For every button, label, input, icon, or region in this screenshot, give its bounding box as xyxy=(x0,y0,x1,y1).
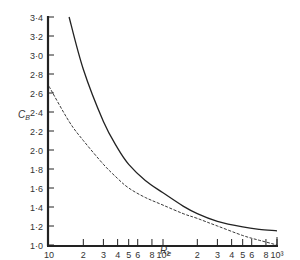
x-tick-label: 8 xyxy=(149,250,154,260)
x-tick-label: 6 xyxy=(135,250,140,260)
y-tick-label: 2·8 xyxy=(30,70,43,80)
y-tick-label: 2·0 xyxy=(30,146,43,156)
y-axis: 1·01·21·41·61·82·02·22·42·62·83·03·23·4 xyxy=(30,13,54,251)
chart: 1·01·21·41·61·82·02·22·42·62·83·03·23·4 … xyxy=(0,0,300,260)
series-solid-line xyxy=(69,17,277,231)
y-tick-label: 2·4 xyxy=(30,108,43,118)
x-tick-label: 2 xyxy=(81,250,86,260)
y-tick-label: 1·2 xyxy=(30,222,43,232)
y-tick-label: 1·4 xyxy=(30,203,43,213)
y-tick-label: 3·0 xyxy=(30,51,43,61)
x-tick-label: 10 xyxy=(44,250,54,260)
y-tick-label: 2·2 xyxy=(30,127,43,137)
y-tick-label: 1·8 xyxy=(30,165,43,175)
y-axis-label: CB xyxy=(18,109,30,121)
y-tick-label: 1·0 xyxy=(30,241,43,251)
y-tick-label: 2·6 xyxy=(30,89,43,99)
y-axis-label-subscript: B xyxy=(25,114,30,121)
plot-area: 1·01·21·41·61·82·02·22·42·62·83·03·23·4 … xyxy=(0,0,300,260)
x-tick-label: 4 xyxy=(229,250,234,260)
x-tick-label: 5 xyxy=(240,250,245,260)
x-tick-label: 6 xyxy=(249,250,254,260)
y-tick-label: 1·6 xyxy=(30,184,43,194)
x-axis-label-subscript: e xyxy=(167,250,171,257)
y-tick-label: 3·4 xyxy=(30,13,43,23)
series-dashed-line xyxy=(49,86,277,245)
x-tick-label: 10³ xyxy=(270,250,283,260)
x-tick-label: 5 xyxy=(126,250,131,260)
x-tick-label: 4 xyxy=(115,250,120,260)
x-tick-label: 3 xyxy=(101,250,106,260)
x-tick-label: 8 xyxy=(263,250,268,260)
x-tick-label: 3 xyxy=(215,250,220,260)
series-lines xyxy=(49,17,277,245)
y-tick-label: 3·2 xyxy=(30,32,43,42)
x-tick-label: 2 xyxy=(195,250,200,260)
